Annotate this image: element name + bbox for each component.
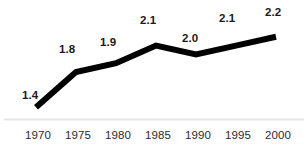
x-tick-1975: 1975 (65, 130, 91, 142)
data-label-1980: 1.9 (100, 37, 116, 49)
x-tick-1985: 1985 (145, 130, 171, 142)
x-tick-1990: 1990 (185, 130, 211, 142)
x-tick-1970: 1970 (25, 130, 51, 142)
x-tick-1980: 1980 (105, 130, 131, 142)
data-label-1975: 1.8 (59, 44, 75, 56)
line-chart: 1.4 1.8 1.9 2.1 2.0 2.1 2.2 1970 1975 19… (0, 0, 308, 153)
data-label-1985: 2.1 (140, 15, 156, 27)
data-label-1990: 2.0 (182, 33, 198, 45)
x-tick-2000: 2000 (265, 130, 291, 142)
data-label-1970: 1.4 (22, 90, 38, 102)
data-label-2000: 2.2 (265, 7, 281, 19)
data-label-1995: 2.1 (219, 13, 235, 25)
x-tick-1995: 1995 (225, 130, 251, 142)
